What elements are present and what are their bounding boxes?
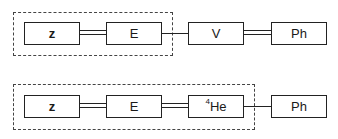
row1-link-z-E (80, 30, 106, 35)
row2-node-He4-label: 4He (205, 99, 226, 114)
row2-link-He4-Ph (244, 106, 271, 107)
mass-number-superscript: 4 (205, 97, 209, 106)
row2-node-Ph: Ph (271, 95, 327, 118)
row1-link-E-V (162, 33, 188, 34)
row2-node-He4: 4He (188, 95, 244, 118)
row1-node-Ph: Ph (271, 22, 327, 45)
row1-node-z: z (24, 22, 80, 45)
row2-node-E-label: E (130, 99, 139, 114)
row1-node-V: V (188, 22, 244, 45)
row1-node-z-label: z (49, 26, 56, 41)
row2-node-z: z (24, 95, 80, 118)
row1-node-E-label: E (130, 26, 139, 41)
row2-node-Ph-label: Ph (291, 99, 307, 114)
row1-node-E: E (106, 22, 162, 45)
row2-node-E: E (106, 95, 162, 118)
row2-link-z-E (80, 103, 106, 108)
row1-link-V-Ph (244, 30, 271, 35)
row1-node-Ph-label: Ph (291, 26, 307, 41)
row2-node-z-label: z (49, 99, 56, 114)
row2-link-E-He4 (162, 103, 188, 108)
row1-node-V-label: V (212, 26, 221, 41)
